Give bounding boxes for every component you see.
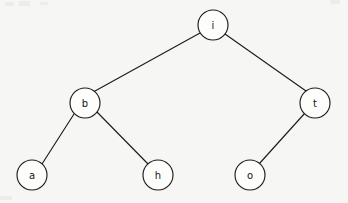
tree-graphic: ibtaho	[0, 0, 348, 203]
tree-edge-i-t	[225, 34, 306, 91]
node-label-h: h	[155, 170, 161, 181]
node-label-o: o	[247, 170, 253, 181]
node-label-i: i	[212, 20, 215, 31]
tree-edge-b-a	[42, 114, 74, 164]
tree-edge-b-h	[97, 112, 149, 165]
tree-node-o[interactable]: o	[235, 160, 265, 190]
tree-node-b[interactable]: b	[70, 88, 100, 118]
binary-tree-diagram: ibtaho	[0, 0, 348, 203]
node-label-t: t	[313, 98, 317, 109]
node-label-a: a	[29, 170, 35, 181]
tree-node-i[interactable]: i	[198, 10, 228, 40]
tree-node-t[interactable]: t	[300, 88, 330, 118]
node-label-b: b	[82, 98, 88, 109]
tree-edge-t-o	[259, 113, 305, 164]
tree-edge-i-b	[95, 33, 200, 91]
tree-node-a[interactable]: a	[17, 160, 47, 190]
nodes-group: ibtaho	[17, 10, 330, 190]
tree-node-h[interactable]: h	[143, 160, 173, 190]
